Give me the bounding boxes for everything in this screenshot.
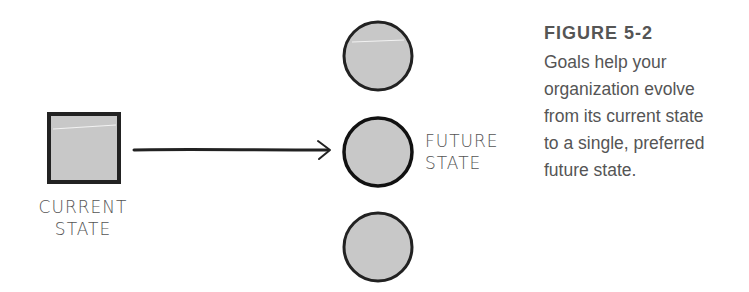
current-state-square — [49, 114, 119, 182]
future-state-label-line1: FUTURE — [425, 130, 499, 152]
future-state-circle-bottom — [344, 213, 412, 281]
caption-line: to a single, preferred — [544, 130, 749, 157]
figure-title: FIGURE 5-2 — [544, 20, 749, 46]
caption-line: Goals help your — [544, 49, 749, 76]
future-state-label-line2: STATE — [425, 152, 499, 174]
current-state-label-line2: STATE — [18, 218, 148, 240]
figure-description: Goals help your organization evolve from… — [544, 49, 749, 184]
arrow-icon — [134, 141, 330, 159]
current-state-label: CURRENT STATE — [18, 196, 148, 240]
goals-diagram: CURRENT STATE FUTURE STATE FIGURE 5-2 Go… — [0, 0, 749, 292]
current-state-label-line1: CURRENT — [18, 196, 148, 218]
future-state-circle-top — [344, 22, 412, 90]
caption-line: organization evolve — [544, 76, 749, 103]
future-state-label: FUTURE STATE — [425, 130, 499, 174]
figure-caption: FIGURE 5-2 Goals help your organization … — [544, 20, 749, 184]
caption-line: from its current state — [544, 103, 749, 130]
caption-line: future state. — [544, 157, 749, 184]
future-state-circle-preferred — [344, 118, 412, 186]
